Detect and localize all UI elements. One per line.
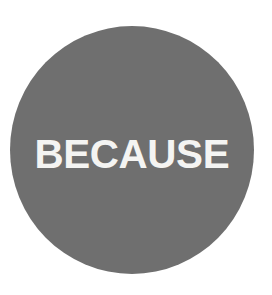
badge-label: BECAUSE — [35, 134, 230, 175]
image-canvas: BECAUSE — [0, 0, 272, 295]
circle-badge: BECAUSE — [10, 26, 254, 274]
